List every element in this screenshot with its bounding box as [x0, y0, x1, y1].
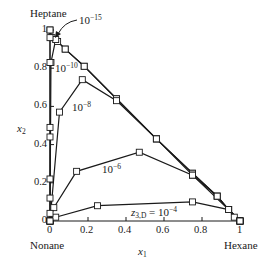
x-tick-label: 0.4: [118, 225, 131, 236]
y-tick-label: 0.8: [34, 62, 47, 73]
x-tick-label: 1: [237, 225, 242, 236]
y-tick-label: 0.2: [34, 177, 47, 188]
square-marker-icon: [214, 193, 220, 199]
y-axis-label-sub: 2: [22, 127, 26, 136]
square-marker-icon: [51, 205, 57, 211]
ann-exp: −15: [90, 13, 102, 22]
annotation-1e-4: z3,D = 10−4: [131, 206, 177, 220]
x-tick-label: 0.8: [194, 225, 207, 236]
y-tick-label: 0.6: [34, 100, 47, 111]
axis-ticks: [50, 30, 240, 221]
square-marker-icon: [231, 214, 237, 220]
square-marker-icon: [81, 63, 87, 69]
square-marker-icon: [47, 210, 53, 216]
ann-base: 10: [79, 14, 90, 26]
square-marker-icon: [136, 149, 142, 155]
ann-sub: 3,D: [135, 211, 146, 220]
x-axis-label-sub: 1: [143, 250, 147, 259]
corner-label-heptane: Heptane: [30, 8, 67, 19]
ann-base: 10: [55, 62, 66, 74]
y-axis-label: x2: [17, 123, 26, 136]
annotation-arrow-icon: [58, 20, 77, 34]
annotation-1e-8: 10−8: [72, 101, 91, 113]
square-marker-icon: [190, 199, 196, 205]
x-axis-label: x1: [138, 246, 147, 259]
ann-exp: −8: [83, 100, 91, 109]
annotation-1e-10: 10−10: [55, 62, 78, 74]
y-tick-label: 0.4: [34, 139, 47, 150]
annotation-1e-15: 10−15: [79, 14, 102, 26]
ann-base: 10: [72, 101, 83, 113]
square-marker-icon: [47, 59, 53, 65]
ann-exp: −4: [169, 205, 177, 214]
square-marker-icon: [114, 98, 120, 104]
square-marker-icon: [62, 46, 68, 52]
square-marker-icon: [226, 207, 232, 213]
square-marker-icon: [153, 136, 159, 142]
x-tick-label: 0.6: [156, 225, 169, 236]
corner-label-nonane: Nonane: [30, 240, 64, 251]
square-marker-icon: [74, 168, 80, 174]
ann-base: 10: [102, 163, 113, 175]
ann-exp: −10: [66, 61, 78, 70]
ann-eq: = 10: [146, 206, 169, 218]
square-marker-icon: [47, 176, 53, 182]
square-marker-icon: [57, 109, 63, 115]
ann-exp: −6: [113, 162, 121, 171]
y-tick-label: 1: [42, 24, 47, 35]
square-marker-icon: [95, 203, 101, 209]
square-marker-icon: [47, 134, 53, 140]
square-marker-icon: [79, 77, 85, 83]
square-marker-icon: [53, 214, 59, 220]
ternary-composition-chart: [0, 0, 263, 271]
annotation-1e-6: 10−6: [102, 163, 121, 175]
x-tick-label: 0.2: [80, 225, 93, 236]
square-marker-icon: [47, 124, 53, 130]
square-marker-icon: [47, 27, 53, 33]
corner-label-hexane: Hexane: [224, 240, 258, 251]
square-marker-icon: [47, 195, 53, 201]
series-lines: [50, 30, 240, 221]
series-line-0: [50, 30, 240, 221]
square-marker-icon: [190, 172, 196, 178]
square-marker-icon: [47, 35, 53, 41]
x-tick-label: 0: [47, 225, 52, 236]
